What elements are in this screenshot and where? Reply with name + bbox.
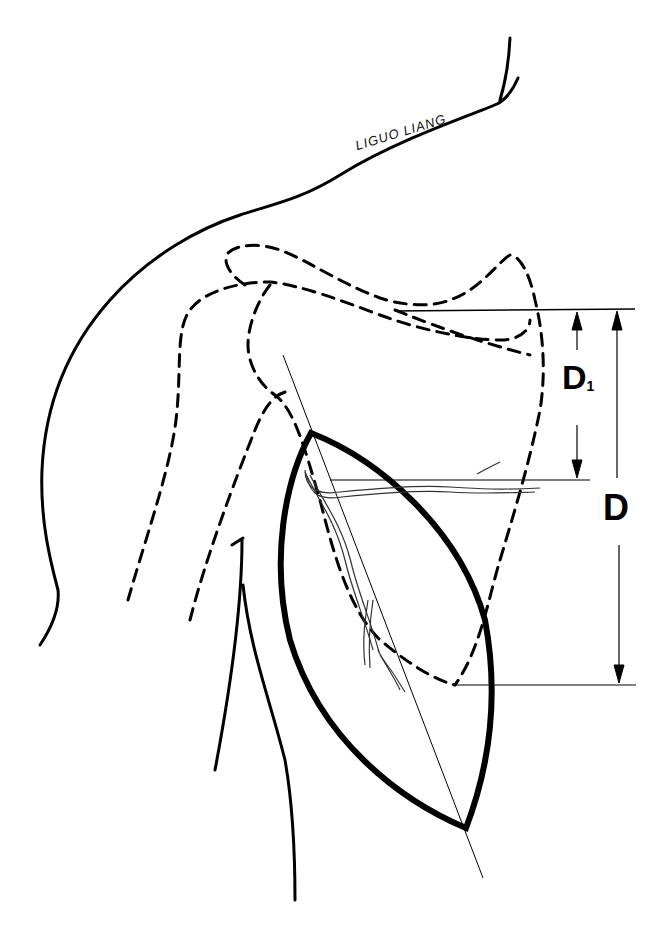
- neck-line: [500, 38, 510, 100]
- scapula-dashed-outline: [128, 245, 543, 685]
- arm-outline-left: [215, 538, 243, 770]
- dimension-label-d1: D1: [562, 360, 594, 394]
- dimension-label-d: D: [603, 490, 629, 526]
- vessel-branches: [305, 462, 540, 692]
- dimension-label-d1-main: D: [562, 358, 587, 396]
- dimension-label-d1-sub: 1: [587, 378, 595, 394]
- anatomical-diagram: [0, 0, 669, 929]
